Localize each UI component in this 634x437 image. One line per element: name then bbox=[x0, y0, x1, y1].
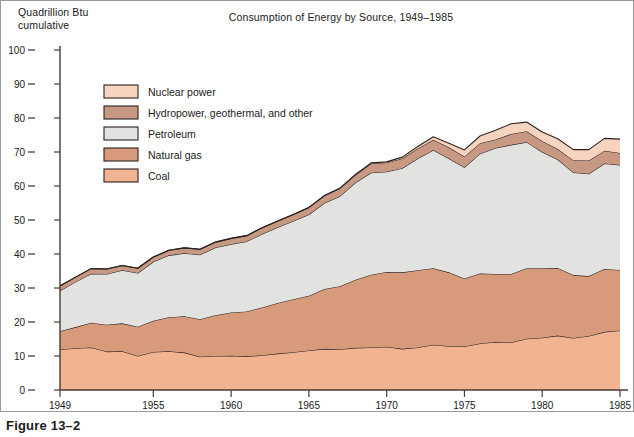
y-tick-label: 40 bbox=[14, 249, 26, 260]
y-axis-ticks: 0102030405060708090100 bbox=[8, 45, 60, 396]
chart-legend: Nuclear powerHydropower, geothermal, and… bbox=[104, 85, 313, 182]
y-tick-label: 0 bbox=[19, 385, 25, 396]
legend-item: Coal bbox=[104, 169, 170, 182]
legend-item: Petroleum bbox=[104, 127, 196, 140]
y-tick-label: 100 bbox=[8, 45, 25, 56]
x-tick-label: 1965 bbox=[298, 400, 321, 411]
legend-label: Coal bbox=[148, 170, 170, 182]
y-tick-label: 70 bbox=[14, 147, 26, 158]
legend-item: Hydropower, geothermal, and other bbox=[104, 106, 313, 119]
legend-swatch bbox=[104, 169, 138, 182]
y-tick-label: 50 bbox=[14, 215, 26, 226]
x-tick-label: 1949 bbox=[49, 400, 72, 411]
y-tick-label: 80 bbox=[14, 113, 26, 124]
legend-swatch bbox=[104, 127, 138, 140]
legend-swatch bbox=[104, 148, 138, 161]
x-tick-label: 1975 bbox=[453, 400, 476, 411]
legend-label: Nuclear power bbox=[148, 86, 216, 98]
legend-item: Natural gas bbox=[104, 148, 202, 161]
y-tick-label: 30 bbox=[14, 283, 26, 294]
legend-item: Nuclear power bbox=[104, 85, 216, 98]
legend-label: Hydropower, geothermal, and other bbox=[148, 107, 313, 119]
area-series-group bbox=[60, 122, 620, 390]
x-tick-label: 1970 bbox=[376, 400, 399, 411]
x-tick-label: 1980 bbox=[531, 400, 554, 411]
legend-swatch bbox=[104, 85, 138, 98]
y-tick-label: 10 bbox=[14, 351, 26, 362]
y-tick-label: 90 bbox=[14, 79, 26, 90]
x-axis-ticks: 19491955196019651970197519801985 bbox=[49, 390, 632, 411]
x-tick-label: 1960 bbox=[220, 400, 243, 411]
x-tick-label: 1985 bbox=[609, 400, 632, 411]
y-tick-label: 60 bbox=[14, 181, 26, 192]
x-tick-label: 1955 bbox=[142, 400, 165, 411]
legend-label: Natural gas bbox=[148, 149, 202, 161]
y-tick-label: 20 bbox=[14, 317, 26, 328]
figure-caption: Figure 13–2 bbox=[6, 418, 80, 433]
stacked-area-chart: 0102030405060708090100 19491955196019651… bbox=[0, 0, 634, 437]
legend-label: Petroleum bbox=[148, 128, 196, 140]
figure-root: Quadrillion Btu cumulative Consumption o… bbox=[0, 0, 634, 437]
legend-swatch bbox=[104, 106, 138, 119]
